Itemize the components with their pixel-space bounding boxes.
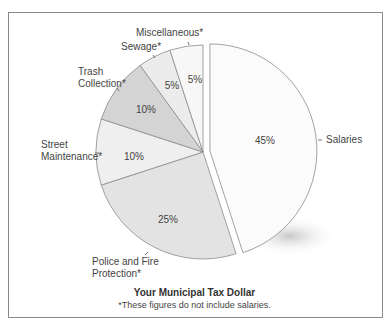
label-police-line2: Protection*	[92, 268, 159, 280]
label-trash-line2: Collection*	[78, 78, 126, 90]
pct-police: 25%	[158, 214, 178, 225]
label-street-line1: Street	[41, 139, 102, 151]
pie-chart	[0, 0, 389, 329]
pct-trash: 10%	[136, 104, 156, 115]
chart-title: Your Municipal Tax Dollar	[0, 287, 389, 298]
label-police: Police and Fire Protection*	[92, 256, 159, 280]
label-trash: Trash Collection*	[78, 66, 126, 90]
label-sewage: Sewage*	[121, 41, 161, 53]
pct-misc: 5%	[188, 74, 202, 85]
pct-sewage: 5%	[165, 80, 179, 91]
chart-footnote: *These figures do not include salaries.	[0, 300, 389, 310]
pct-street: 10%	[124, 151, 144, 162]
label-misc: Miscellaneous*	[136, 27, 203, 39]
label-street: Street Maintenance*	[41, 139, 102, 163]
pct-salaries: 45%	[255, 135, 275, 146]
label-street-line2: Maintenance*	[41, 151, 102, 163]
label-salaries: Salaries	[326, 134, 362, 146]
label-trash-line1: Trash	[78, 66, 126, 78]
label-police-line1: Police and Fire	[92, 256, 159, 268]
